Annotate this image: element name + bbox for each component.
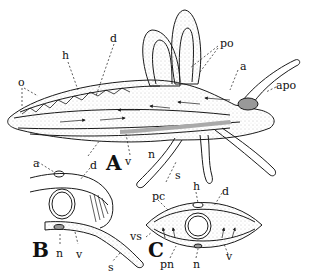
diagram-drawing [0, 0, 310, 278]
label-a-v: v [125, 156, 131, 167]
label-a-h: h [62, 50, 69, 61]
panel-b-title: B [32, 240, 49, 260]
label-b-s: s [108, 262, 114, 273]
label-c-vs: vs [130, 231, 142, 242]
label-c-h: h [193, 181, 200, 192]
label-c-n: n [193, 259, 200, 270]
label-a-d: d [110, 33, 117, 44]
panel-a-body [8, 80, 274, 142]
label-a-n: n [148, 149, 155, 160]
label-b-a: a [33, 158, 40, 169]
label-a-apo: apo [276, 80, 296, 91]
panel-c-title: C [148, 240, 164, 260]
label-b-v: v [76, 249, 82, 260]
label-a-a: a [240, 61, 247, 72]
label-a-s: s [175, 170, 181, 181]
label-c-pc: pc [152, 191, 165, 202]
label-b-n: n [56, 248, 63, 259]
label-a-po: po [220, 38, 234, 49]
label-b-d: d [90, 160, 97, 171]
label-c-d: d [222, 186, 229, 197]
label-c-v: v [226, 251, 232, 262]
label-a-o: o [18, 77, 25, 88]
panel-a-gills [143, 10, 201, 86]
panel-a-title: A [106, 153, 122, 173]
